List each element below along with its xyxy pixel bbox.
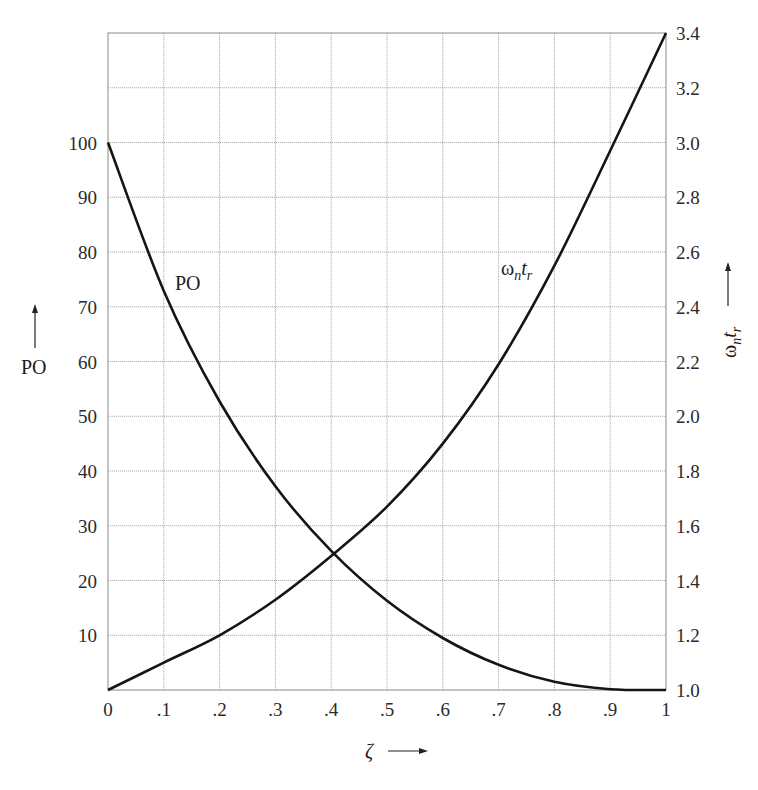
svg-text:0: 0	[103, 699, 113, 720]
svg-text:2.8: 2.8	[676, 187, 700, 208]
svg-text:ζ: ζ	[365, 740, 375, 763]
svg-text:60: 60	[78, 352, 97, 373]
right-axis-label: ωntr	[718, 262, 744, 358]
svg-text:.6: .6	[436, 699, 450, 720]
arrowhead-icon	[725, 262, 731, 271]
svg-text:3.0: 3.0	[676, 133, 700, 154]
svg-text:10: 10	[78, 625, 97, 646]
right-tick-labels: 1.01.21.41.61.82.02.22.42.62.83.03.23.4	[676, 23, 700, 701]
wntr-curve-label: ωntr	[501, 257, 533, 283]
svg-text:.3: .3	[268, 699, 282, 720]
svg-text:2.0: 2.0	[676, 406, 700, 427]
x-tick-labels: 0.1.2.3.4.5.6.7.8.91	[103, 699, 671, 720]
svg-text:1.2: 1.2	[676, 625, 700, 646]
chart: 0.1.2.3.4.5.6.7.8.91 1020304050607080901…	[0, 0, 758, 790]
svg-text:PO: PO	[21, 356, 47, 378]
svg-text:1.4: 1.4	[676, 571, 700, 592]
svg-text:30: 30	[78, 516, 97, 537]
svg-text:.7: .7	[491, 699, 505, 720]
svg-text:50: 50	[78, 406, 97, 427]
left-tick-labels: 102030405060708090100	[69, 133, 98, 647]
svg-text:40: 40	[78, 461, 97, 482]
svg-text:90: 90	[78, 187, 97, 208]
svg-text:20: 20	[78, 571, 97, 592]
svg-text:3.2: 3.2	[676, 78, 700, 99]
po-curve-label: PO	[175, 272, 201, 294]
svg-text:1.0: 1.0	[676, 680, 700, 701]
svg-text:.1: .1	[157, 699, 171, 720]
svg-text:2.2: 2.2	[676, 352, 700, 373]
svg-text:.8: .8	[547, 699, 561, 720]
svg-text:.9: .9	[603, 699, 617, 720]
svg-text:.4: .4	[324, 699, 339, 720]
arrowhead-icon	[419, 748, 428, 754]
left-axis-label: PO	[21, 304, 47, 378]
svg-text:.5: .5	[380, 699, 394, 720]
svg-text:2.4: 2.4	[676, 297, 700, 318]
svg-text:.2: .2	[212, 699, 226, 720]
svg-text:100: 100	[69, 133, 98, 154]
grid	[108, 33, 666, 690]
svg-text:80: 80	[78, 242, 97, 263]
svg-text:1.6: 1.6	[676, 516, 700, 537]
svg-text:1: 1	[661, 699, 671, 720]
arrowhead-icon	[32, 304, 38, 313]
svg-text:2.6: 2.6	[676, 242, 700, 263]
x-axis-label: ζ	[365, 740, 428, 763]
svg-text:ωntr: ωntr	[718, 326, 744, 358]
svg-text:3.4: 3.4	[676, 23, 700, 44]
svg-text:70: 70	[78, 297, 97, 318]
svg-text:1.8: 1.8	[676, 461, 700, 482]
